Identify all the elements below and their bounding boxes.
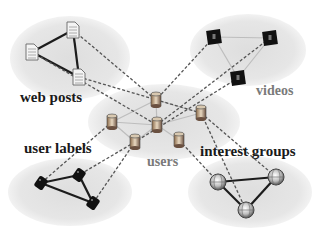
globe-icon bbox=[238, 202, 254, 218]
video-icon bbox=[262, 30, 278, 46]
user-database-icon bbox=[174, 132, 184, 148]
document-icon bbox=[26, 44, 38, 60]
user-database-icon bbox=[196, 105, 206, 121]
label-videos: videos bbox=[256, 84, 293, 98]
label-interest-groups: interest groups bbox=[200, 144, 296, 159]
user-database-icon bbox=[107, 114, 117, 130]
label-users: users bbox=[147, 155, 178, 169]
cluster-user-labels bbox=[8, 158, 132, 226]
document-icon bbox=[67, 22, 79, 38]
globe-icon bbox=[268, 169, 284, 185]
label-user-labels: user labels bbox=[24, 141, 92, 156]
globe-icon bbox=[210, 174, 226, 190]
video-icon bbox=[230, 70, 246, 86]
cluster-videos bbox=[190, 14, 306, 86]
document-icon bbox=[73, 69, 85, 85]
network-diagram bbox=[0, 0, 318, 230]
user-database-icon bbox=[151, 92, 161, 108]
user-database-icon bbox=[130, 134, 140, 150]
video-icon bbox=[206, 29, 222, 45]
label-web-posts: web posts bbox=[20, 90, 82, 105]
user-database-icon bbox=[152, 117, 162, 133]
